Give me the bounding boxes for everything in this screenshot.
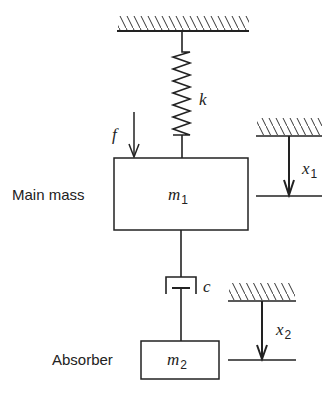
x2-label: x2 [275,320,292,342]
main-mass-label: Main mass [12,186,85,203]
x1-reference [256,118,322,196]
spring-label: k [199,90,207,109]
force-label: f [112,125,119,144]
vibration-absorber-diagram: k f Main mass m1 x1 c Absorber m2 [0,0,332,395]
x1-label: x1 [301,159,318,181]
absorber-label: Absorber [52,351,113,368]
x2-reference [228,283,296,360]
damper-c [166,230,196,341]
spring-k [173,31,190,158]
damper-label: c [203,277,211,296]
force-arrow [129,112,139,157]
top-ground [117,16,249,31]
